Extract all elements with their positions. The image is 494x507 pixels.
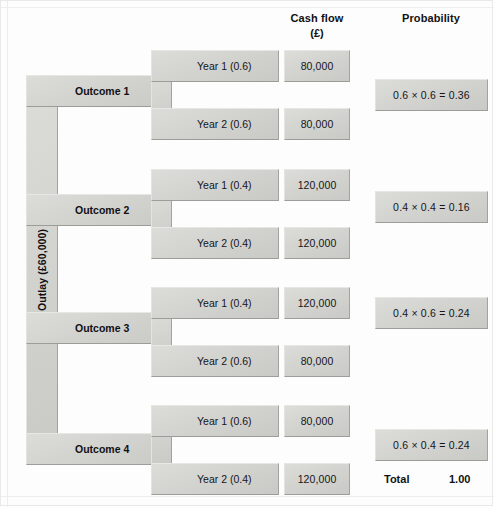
probability-box-4: 0.6 × 0.4 = 0.24 (375, 429, 488, 461)
scan-edge-bottom (1, 496, 494, 497)
probability-box-1: 0.6 × 0.6 = 0.36 (375, 79, 488, 111)
scan-edge-left (7, 1, 8, 507)
probability-value-1: 0.6 × 0.6 = 0.36 (376, 89, 487, 101)
probability-box-3: 0.4 × 0.6 = 0.24 (375, 297, 488, 329)
cash-flow-value-1-year2: 80,000 (285, 118, 349, 130)
cash-flow-box-4-year2: 120,000 (284, 463, 350, 495)
cash-flow-box-3-year1: 120,000 (284, 287, 350, 319)
total-label: Total (384, 473, 409, 485)
year1-label-4: Year 1 (0.6) (197, 415, 251, 427)
year2-label-4: Year 2 (0.4) (197, 473, 251, 485)
outcome-label-3: Outcome 3 (75, 322, 129, 334)
cash-flow-value-4-year1: 80,000 (285, 415, 349, 427)
cash-flow-box-2-year2: 120,000 (284, 227, 350, 259)
cash-flow-value-1-year1: 80,000 (285, 60, 349, 72)
cash-flow-header-line2: (£) (273, 26, 361, 41)
scan-edge-top (1, 7, 494, 8)
cash-flow-box-3-year2: 80,000 (284, 345, 350, 377)
outlay-trunk-label: Outlay (£60,000) (36, 220, 48, 320)
cash-flow-value-2-year2: 120,000 (285, 237, 349, 249)
total-value: 1.00 (449, 473, 470, 485)
probability-box-2: 0.4 × 0.4 = 0.16 (375, 191, 488, 223)
cash-flow-box-1-year2: 80,000 (284, 108, 350, 140)
year1-label-3: Year 1 (0.4) (197, 297, 251, 309)
probability-value-3: 0.4 × 0.6 = 0.24 (376, 307, 487, 319)
probability-column-header: Probability (371, 11, 491, 26)
year2-label-3: Year 2 (0.6) (197, 355, 251, 367)
cash-flow-box-4-year1: 80,000 (284, 405, 350, 437)
cash-flow-header-line1: Cash flow (273, 11, 361, 26)
cash-flow-value-3-year1: 120,000 (285, 297, 349, 309)
cash-flow-value-4-year2: 120,000 (285, 473, 349, 485)
cash-flow-box-2-year1: 120,000 (284, 169, 350, 201)
year1-label-1: Year 1 (0.6) (197, 60, 251, 72)
year2-label-2: Year 2 (0.4) (197, 237, 251, 249)
probability-value-2: 0.4 × 0.4 = 0.16 (376, 201, 487, 213)
outcome-label-1: Outcome 1 (75, 85, 129, 97)
cash-flow-box-1-year1: 80,000 (284, 50, 350, 82)
outcome-label-2: Outcome 2 (75, 204, 129, 216)
year1-label-2: Year 1 (0.4) (197, 179, 251, 191)
probability-header-label: Probability (402, 12, 460, 24)
probability-value-4: 0.6 × 0.4 = 0.24 (376, 439, 487, 451)
cash-flow-column-header: Cash flow (£) (273, 11, 361, 41)
cash-flow-value-2-year1: 120,000 (285, 179, 349, 191)
year2-label-1: Year 2 (0.6) (197, 118, 251, 130)
outcome-label-4: Outcome 4 (75, 443, 129, 455)
cash-flow-value-3-year2: 80,000 (285, 355, 349, 367)
